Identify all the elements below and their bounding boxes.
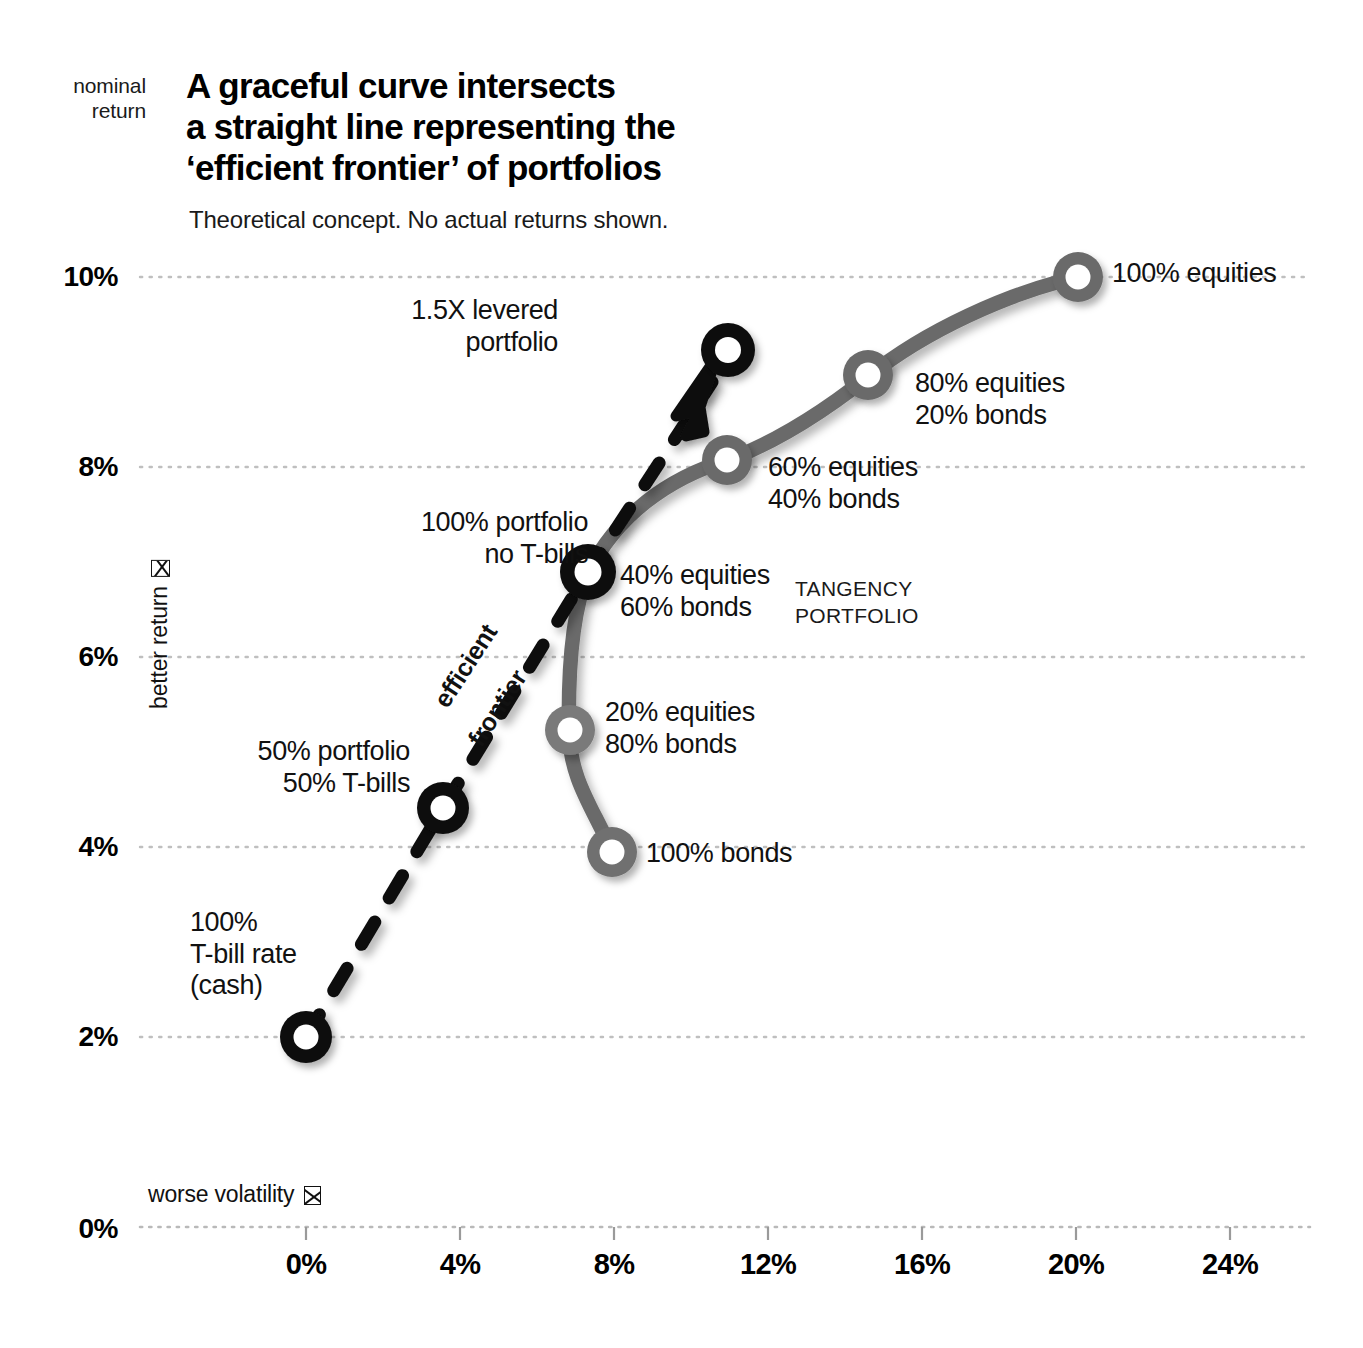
x-tick-4: 4% — [440, 1248, 481, 1281]
plot-svg — [0, 0, 1363, 1348]
x-tick-16: 16% — [894, 1248, 950, 1281]
marker-20-equities-80-bonds[interactable] — [545, 705, 595, 755]
x-tick-12: 12% — [740, 1248, 796, 1281]
marker-60-equities-40-bonds[interactable] — [702, 435, 752, 485]
annotation-80-equities: 80% equities 20% bonds — [915, 368, 1065, 431]
marker-100-bonds[interactable] — [587, 827, 637, 877]
gridlines — [140, 277, 1310, 1037]
x-tick-8: 8% — [594, 1248, 635, 1281]
marker-80-equities-20-bonds[interactable] — [843, 350, 893, 400]
annotation-100-portfolio-no-tbills: 100% portfolio no T-bills — [330, 507, 588, 570]
annotation-20-equities: 20% equities 80% bonds — [605, 697, 755, 760]
y-axis-title-text: better return — [146, 586, 172, 709]
y-tick-0: 0% — [0, 1213, 118, 1245]
annotation-50-portfolio-50-tbills: 50% portfolio 50% T-bills — [180, 736, 410, 799]
y-tick-10: 10% — [0, 261, 118, 293]
annotation-100-equities: 100% equities — [1112, 258, 1276, 290]
marker-100-tbill-cash[interactable] — [280, 1011, 332, 1063]
annotation-tangency-portfolio: TANGENCY PORTFOLIO — [795, 576, 919, 630]
x-tick-24: 24% — [1202, 1248, 1258, 1281]
annotation-15x-levered: 1.5X levered portfolio — [388, 295, 558, 358]
up-arrow-icon — [151, 560, 170, 577]
marker-50-portfolio-50-tbills[interactable] — [417, 782, 469, 834]
annotation-100-tbill-rate-cash: 100% T-bill rate (cash) — [190, 907, 297, 1002]
x-axis-title-text: worse volatility — [148, 1181, 294, 1207]
marker-100-equities[interactable] — [1053, 252, 1103, 302]
x-axis-title: worse volatility — [148, 1181, 321, 1208]
x-tick-0: 0% — [286, 1248, 327, 1281]
y-tick-6: 6% — [0, 641, 118, 673]
annotation-40-equities: 40% equities 60% bonds — [620, 560, 770, 623]
y-tick-8: 8% — [0, 451, 118, 483]
x-tick-20: 20% — [1048, 1248, 1104, 1281]
chart-canvas: nominal return A graceful curve intersec… — [0, 0, 1363, 1348]
annotation-60-equities: 60% equities 40% bonds — [768, 452, 918, 515]
x-axis-baseline — [140, 1227, 1310, 1240]
y-tick-2: 2% — [0, 1021, 118, 1053]
annotation-100-bonds: 100% bonds — [646, 838, 792, 870]
right-arrow-icon — [304, 1186, 321, 1205]
y-axis-title: better return — [146, 560, 173, 709]
chart-subtitle: Theoretical concept. No actual returns s… — [189, 206, 668, 235]
marker-15x-levered-portfolio[interactable] — [701, 323, 755, 377]
y-tick-4: 4% — [0, 831, 118, 863]
y-axis-corner-label: nominal return — [36, 74, 146, 124]
page-title: A graceful curve intersects a straight l… — [186, 66, 946, 189]
